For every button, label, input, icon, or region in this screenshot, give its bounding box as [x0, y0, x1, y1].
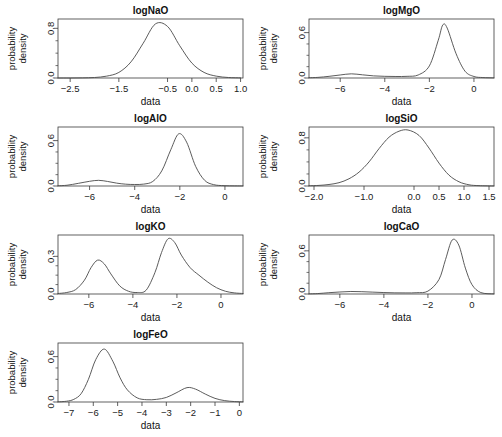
y-axis: 0.00.6	[296, 244, 309, 300]
panel-logalo: logAlO−6−4−20data0.00.6probabilitydensit…	[0, 108, 251, 218]
y-axis: 0.00.6	[45, 134, 58, 193]
x-tick-label: −1	[210, 407, 221, 418]
y-tick-label: 0.6	[45, 350, 56, 363]
x-tick-label: 0	[237, 407, 242, 418]
x-tick-label: −2	[424, 83, 435, 94]
x-tick-label: −6	[83, 299, 94, 310]
x-tick-label: −2	[172, 299, 183, 310]
x-tick-label: −4	[137, 407, 148, 418]
x-tick-label: −1.5	[109, 83, 128, 94]
panel-title: logNaO	[133, 5, 169, 16]
x-tick-label: −3	[161, 407, 172, 418]
x-tick-label: −4	[129, 191, 140, 202]
x-tick-label: 0	[222, 191, 227, 202]
x-axis-label: data	[392, 312, 412, 323]
y-tick-label: 0.0	[45, 179, 56, 192]
panel-title: logAlO	[134, 113, 167, 124]
x-tick-label: −2	[185, 407, 196, 418]
x-axis: −6−4−20	[84, 186, 227, 202]
x-axis: −6−4−20	[335, 78, 477, 94]
y-tick-label: 0.6	[45, 134, 56, 147]
y-axis: 0.00.8	[45, 22, 58, 85]
plot-box	[58, 127, 243, 186]
x-tick-label: 0	[218, 299, 223, 310]
x-axis: −6−4−20	[83, 294, 223, 310]
y-axis: 0.00.6	[296, 26, 309, 85]
x-tick-label: −1.0	[355, 191, 374, 202]
y-axis-label: probabilitydensity	[257, 243, 279, 287]
x-tick-label: −0.5	[158, 83, 177, 94]
x-axis: −2.5−1.5−0.50.00.51.0	[61, 78, 247, 94]
y-axis-label: probabilitydensity	[6, 27, 28, 71]
x-axis-label: data	[141, 204, 161, 215]
plot-box	[58, 19, 243, 78]
density-curve	[58, 349, 243, 402]
y-tick-label: 0.0	[45, 395, 56, 408]
panel-canvas: logFeO−7−6−5−4−3−2−10data0.00.6probabili…	[0, 324, 251, 434]
x-tick-label: −7	[64, 407, 75, 418]
x-tick-label: −6	[335, 83, 346, 94]
panel-canvas: logKO−6−4−20data0.00.3probabilitydensity	[0, 216, 251, 326]
y-axis: 0.00.8	[296, 131, 309, 192]
panel-lognao: logNaO−2.5−1.5−0.50.00.51.0data0.00.8pro…	[0, 0, 251, 110]
x-axis-label: data	[392, 204, 412, 215]
density-plot-figure: logNaO−2.5−1.5−0.50.00.51.0data0.00.8pro…	[0, 0, 502, 437]
y-axis-label: probabilitydensity	[257, 27, 279, 71]
panel-canvas: logCaO−6−4−20data0.00.6probabilitydensit…	[251, 216, 502, 326]
y-axis: 0.00.6	[45, 350, 58, 409]
panel-logmgo: logMgO−6−4−20data0.00.6probabilitydensit…	[251, 0, 502, 110]
x-axis-label: data	[141, 312, 161, 323]
panel-logcao: logCaO−6−4−20data0.00.6probabilitydensit…	[251, 216, 502, 326]
x-tick-label: −2.0	[305, 191, 324, 202]
panel-title: logMgO	[383, 5, 420, 16]
y-tick-label: 0.6	[296, 244, 307, 257]
density-curve	[58, 23, 241, 78]
y-tick-label: 0.0	[296, 179, 307, 192]
x-tick-label: −6	[334, 299, 345, 310]
panel-logko: logKO−6−4−20data0.00.3probabilitydensity	[0, 216, 251, 326]
plot-box	[58, 235, 243, 294]
panel-logsio: logSiO−2.0−1.00.00.51.01.5data0.00.8prob…	[251, 108, 502, 218]
x-axis: −2.0−1.00.00.51.01.5	[305, 186, 496, 202]
y-tick-label: 0.0	[45, 287, 56, 300]
y-axis-label: probabilitydensity	[6, 351, 28, 395]
panel-title: logKO	[136, 221, 166, 232]
x-tick-label: −2	[174, 191, 185, 202]
y-tick-label: 0.0	[296, 287, 307, 300]
x-tick-label: 1.0	[234, 83, 247, 94]
x-tick-label: −6	[88, 407, 99, 418]
panel-canvas: logSiO−2.0−1.00.00.51.01.5data0.00.8prob…	[251, 108, 502, 218]
x-axis: −7−6−5−4−3−2−10	[64, 402, 242, 418]
panel-canvas: logNaO−2.5−1.5−0.50.00.51.0data0.00.8pro…	[0, 0, 251, 110]
plot-box	[309, 19, 494, 78]
x-tick-label: −2	[423, 299, 434, 310]
x-tick-label: −4	[378, 299, 389, 310]
density-curve	[58, 134, 243, 186]
y-axis-label: probabilitydensity	[6, 243, 28, 287]
y-tick-label: 0.6	[296, 26, 307, 39]
panel-title: logFeO	[133, 329, 168, 340]
panel-title: logCaO	[384, 221, 420, 232]
y-tick-label: 0.8	[45, 22, 56, 35]
x-tick-label: 0.5	[210, 83, 223, 94]
y-axis: 0.00.3	[45, 250, 58, 301]
panel-logfeo: logFeO−7−6−5−4−3−2−10data0.00.6probabili…	[0, 324, 251, 434]
panel-title: logSiO	[385, 113, 417, 124]
plot-box	[309, 235, 494, 294]
x-axis: −6−4−20	[334, 294, 474, 310]
panel-canvas: logAlO−6−4−20data0.00.6probabilitydensit…	[0, 108, 251, 218]
density-curve	[58, 238, 243, 293]
x-axis-label: data	[141, 420, 161, 431]
density-curve	[309, 24, 494, 78]
x-tick-label: 0	[469, 299, 474, 310]
x-axis-label: data	[141, 96, 161, 107]
x-tick-label: −4	[379, 83, 390, 94]
x-tick-label: −6	[84, 191, 95, 202]
x-tick-label: −4	[127, 299, 138, 310]
x-tick-label: −2.5	[61, 83, 80, 94]
x-tick-label: 1.5	[482, 191, 495, 202]
panel-canvas: logMgO−6−4−20data0.00.6probabilitydensit…	[251, 0, 502, 110]
density-curve	[309, 239, 494, 294]
y-tick-label: 0.8	[296, 131, 307, 144]
plot-box	[58, 343, 243, 402]
